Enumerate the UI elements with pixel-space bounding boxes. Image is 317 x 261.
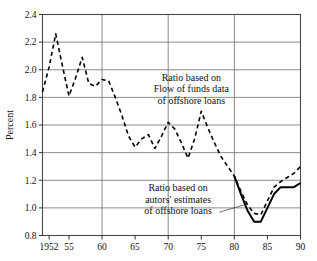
annotation-authors-estimates: Ratio based onautors' estimatesof offsho…: [144, 182, 246, 216]
x-axis-tick-labels: 19525560657075808590: [40, 242, 306, 252]
y-tick-label: 1.6: [25, 120, 37, 130]
annotation-leader-line: [219, 204, 246, 212]
x-axis-ticks: [49, 236, 300, 240]
line-chart: 0.81.01.21.41.61.82.02.22.4 195255606570…: [0, 0, 317, 261]
y-tick-label: 2.0: [25, 65, 37, 75]
y-tick-label: 2.2: [25, 37, 37, 47]
x-tick-label: 1952: [40, 242, 59, 252]
x-tick-label: 60: [97, 242, 107, 252]
chart-figure: 0.81.01.21.41.61.82.02.22.4 195255606570…: [0, 0, 317, 261]
y-tick-label: 1.8: [25, 93, 37, 103]
y-tick-label: 1.4: [25, 148, 37, 158]
annotations-layer: Ratio based onFlow of funds dataof offsh…: [144, 72, 246, 217]
y-tick-label: 1.2: [25, 176, 37, 186]
x-tick-label: 65: [130, 242, 140, 252]
series-line-authors-estimates: [234, 176, 300, 222]
y-tick-label: 0.8: [25, 231, 37, 241]
x-tick-label: 55: [64, 242, 74, 252]
x-tick-label: 75: [197, 242, 207, 252]
annotation-line: Ratio based on: [162, 72, 221, 83]
annotation-line: of offshore loans: [158, 95, 226, 106]
annotation-line: autors' estimates: [145, 194, 211, 205]
x-tick-label: 70: [163, 242, 173, 252]
annotation-flow-of-funds: Ratio based onFlow of funds dataof offsh…: [154, 72, 230, 106]
x-tick-label: 85: [263, 242, 273, 252]
y-axis-title: Percent: [4, 110, 15, 140]
x-tick-label: 90: [296, 242, 306, 252]
x-tick-label: 80: [230, 242, 240, 252]
annotation-line: of offshore loans: [144, 205, 212, 216]
y-tick-label: 2.4: [25, 10, 37, 20]
annotation-line: Ratio based on: [148, 182, 207, 193]
y-axis-tick-labels: 0.81.01.21.41.61.82.02.22.4: [25, 10, 37, 241]
y-tick-label: 1.0: [25, 203, 37, 213]
annotation-line: Flow of funds data: [154, 83, 230, 94]
